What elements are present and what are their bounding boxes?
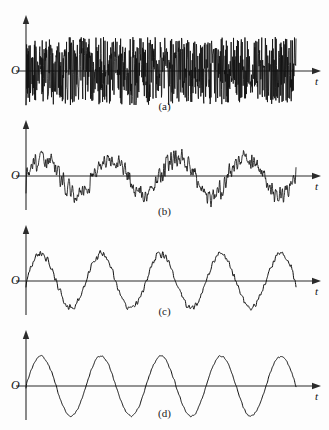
time-axis-label-c: t [315, 286, 318, 297]
waveform-plot-c [0, 210, 329, 320]
noise-reduction-figure: O t (a) O t (b) O t (c) O t (d) [0, 0, 329, 430]
origin-label-b: O [11, 169, 20, 181]
panel-c: O t (c) [0, 210, 329, 320]
origin-label-c: O [11, 274, 20, 286]
waveform-plot-a [0, 0, 329, 110]
time-axis-label-b: t [315, 181, 318, 192]
panel-d: O t (d) [0, 315, 329, 430]
time-axis-label-a: t [315, 76, 318, 87]
origin-label-a: O [11, 64, 20, 76]
panel-b: O t (b) [0, 105, 329, 215]
time-axis-label-d: t [315, 391, 318, 402]
origin-label-d: O [11, 379, 20, 391]
waveform-plot-b [0, 105, 329, 215]
panel-a: O t (a) [0, 0, 329, 110]
caption-d: (d) [0, 408, 329, 419]
